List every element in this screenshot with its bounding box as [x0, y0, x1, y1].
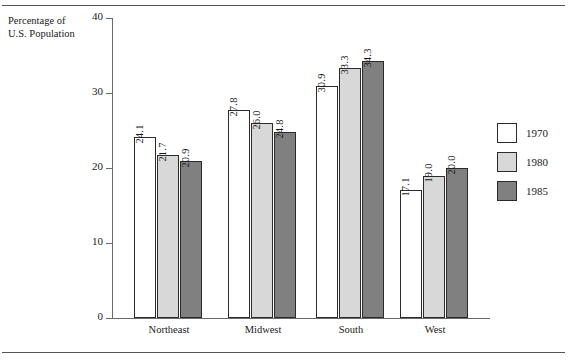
y-tick-label: 20 [92, 160, 103, 172]
bar[interactable]: 17.1 [400, 190, 422, 318]
legend-label: 1970 [526, 127, 548, 139]
bar-value-label: 20.0 [446, 155, 457, 174]
x-axis-category-label: West [425, 324, 446, 335]
bar-group: 24.121.720.9Northeast [134, 18, 204, 318]
y-tick-mark [106, 243, 112, 244]
figure-rule-bottom [2, 352, 565, 353]
legend-label: 1985 [526, 185, 548, 197]
legend-swatch [497, 152, 517, 172]
x-axis-category-label: Midwest [245, 324, 282, 335]
y-tick-mark [106, 168, 112, 169]
figure-caption-clipped [8, 0, 558, 4]
y-tick-label: 40 [92, 10, 103, 22]
bar[interactable]: 26.0 [251, 123, 273, 318]
bar[interactable]: 24.8 [274, 132, 296, 318]
bar[interactable]: 19.0 [423, 176, 445, 319]
y-axis-title-line2: U.S. Population [8, 27, 103, 40]
bar[interactable]: 24.1 [134, 137, 156, 318]
bar-value-label: 27.8 [228, 97, 239, 116]
y-tick-mark [106, 93, 112, 94]
bar-value-label: 33.3 [339, 56, 350, 75]
x-axis-line [112, 318, 490, 319]
bar-value-label: 34.3 [362, 48, 373, 67]
bar-chart-plot-area: 010203040 24.121.720.9Northeast27.826.02… [112, 18, 502, 318]
y-axis-title: Percentage of U.S. Population [8, 14, 103, 40]
figure-rule-top [2, 5, 565, 6]
y-tick-label: 10 [92, 235, 103, 247]
bar-value-label: 24.1 [134, 125, 145, 144]
y-tick-mark [106, 318, 112, 319]
bar-value-label: 26.0 [251, 110, 262, 129]
bar[interactable]: 20.9 [180, 161, 202, 318]
y-axis-title-line1: Percentage of [8, 14, 103, 27]
chart-legend: 197019801985 [497, 118, 569, 205]
legend-item[interactable]: 1980 [497, 147, 569, 176]
bar-value-label: 17.1 [400, 177, 411, 196]
bar-value-label: 20.9 [180, 149, 191, 168]
bar[interactable]: 30.9 [316, 86, 338, 318]
bar[interactable]: 34.3 [362, 61, 384, 318]
bar-value-label: 19.0 [423, 163, 434, 182]
x-axis-category-label: Northeast [149, 324, 190, 335]
bar-value-label: 24.8 [274, 119, 285, 138]
y-tick-mark [106, 18, 112, 19]
y-tick-label: 0 [98, 310, 104, 322]
legend-label: 1980 [526, 156, 548, 168]
legend-item[interactable]: 1970 [497, 118, 569, 147]
bar-group: 30.933.334.3South [316, 18, 386, 318]
bar-group: 17.119.020.0West [400, 18, 470, 318]
y-axis-line [112, 18, 113, 318]
bar[interactable]: 20.0 [446, 168, 468, 318]
bar-group: 27.826.024.8Midwest [228, 18, 298, 318]
bar[interactable]: 27.8 [228, 110, 250, 319]
legend-swatch [497, 181, 517, 201]
legend-item[interactable]: 1985 [497, 176, 569, 205]
bar-value-label: 21.7 [157, 143, 168, 162]
legend-swatch [497, 123, 517, 143]
bar[interactable]: 33.3 [339, 68, 361, 318]
x-axis-category-label: South [339, 324, 364, 335]
y-tick-label: 30 [92, 85, 103, 97]
bar-value-label: 30.9 [316, 74, 327, 93]
bar[interactable]: 21.7 [157, 155, 179, 318]
